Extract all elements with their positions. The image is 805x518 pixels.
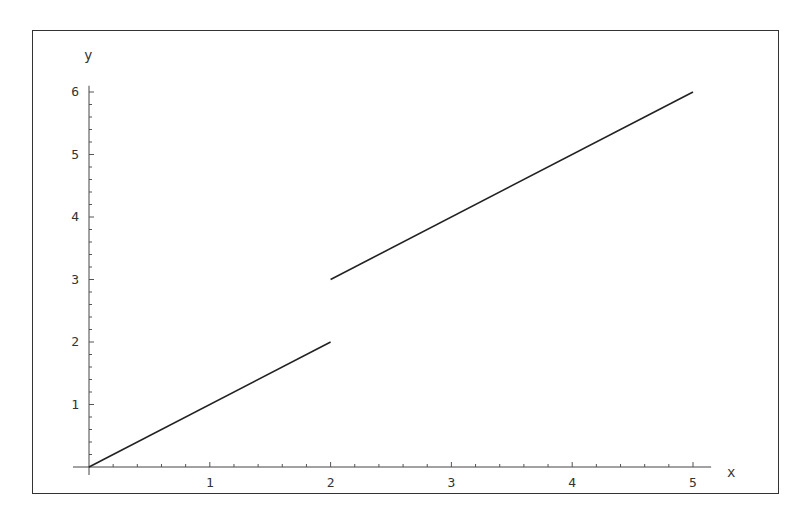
y-tick-label: 6: [71, 84, 79, 99]
series-line-2: [331, 92, 693, 280]
plot-area: 12345123456 x y: [0, 0, 805, 518]
series-line-1: [89, 342, 331, 467]
x-tick-label: 3: [447, 475, 455, 490]
x-tick-label: 1: [206, 475, 214, 490]
x-tick-label: 2: [327, 475, 335, 490]
axes: 12345123456: [71, 84, 711, 490]
x-axis-label: x: [727, 464, 735, 480]
y-tick-label: 2: [71, 334, 79, 349]
x-tick-label: 5: [689, 475, 697, 490]
y-tick-label: 4: [71, 209, 79, 224]
y-tick-label: 5: [71, 147, 79, 162]
data-series: [89, 92, 693, 467]
x-tick-label: 4: [568, 475, 576, 490]
y-tick-label: 3: [71, 272, 79, 287]
y-axis-label: y: [84, 47, 92, 63]
y-tick-label: 1: [71, 397, 79, 412]
